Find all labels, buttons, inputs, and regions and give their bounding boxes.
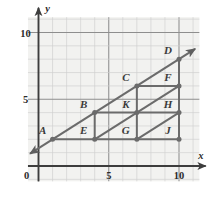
- y-tick-label-10: 10: [20, 28, 31, 39]
- x-axis-name: x: [197, 150, 203, 161]
- vertex-dot-C: [134, 83, 139, 88]
- point-label-C: C: [122, 71, 130, 83]
- x-tick-label-10: 10: [174, 170, 185, 181]
- point-label-G: G: [122, 124, 130, 136]
- vertex-dot-J: [177, 137, 182, 142]
- grid: [28, 17, 199, 181]
- point-label-F: F: [163, 71, 172, 83]
- y-tick-label-5: 5: [23, 94, 28, 105]
- vertex-dot-D: [177, 57, 182, 62]
- vertex-dot-K: [134, 110, 139, 115]
- vertex-dot-F: [177, 83, 182, 88]
- coordinate-plane-figure: ABCDEFGHJK 5105100xy: [0, 0, 218, 202]
- figure-canvas: ABCDEFGHJK 5105100xy: [0, 0, 218, 202]
- point-label-J: J: [164, 124, 171, 136]
- vertex-dot-G: [134, 137, 139, 142]
- point-label-E: E: [79, 124, 87, 136]
- point-label-B: B: [79, 98, 87, 110]
- vertex-dot-B: [92, 110, 97, 115]
- point-label-K: K: [121, 98, 130, 110]
- x-tick-label-5: 5: [106, 170, 111, 181]
- point-label-A: A: [38, 124, 46, 136]
- point-label-H: H: [163, 98, 173, 110]
- y-axis-name: y: [43, 3, 50, 14]
- vertex-dot-H: [177, 110, 182, 115]
- point-label-D: D: [163, 44, 172, 56]
- vertex-dot-E: [92, 137, 97, 142]
- vertex-dot-A: [50, 137, 55, 142]
- origin-label: 0: [24, 170, 29, 181]
